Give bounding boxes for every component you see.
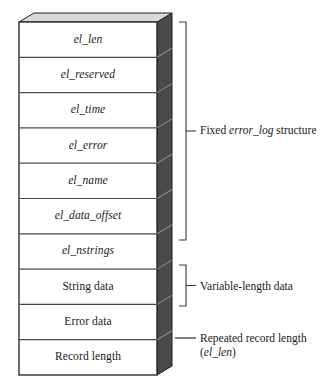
annotation-bracket bbox=[179, 265, 186, 306]
record-field-error-data: Error data bbox=[19, 316, 157, 328]
record-field-el-name: el_name bbox=[19, 175, 157, 187]
diagram-canvas bbox=[0, 0, 330, 388]
annotation-variable-length-data: Variable-length data bbox=[200, 280, 293, 294]
annotation-line-primary: Repeated record length bbox=[200, 332, 307, 346]
error-log-record-diagram: el_lenel_reservedel_timeel_errorel_namee… bbox=[0, 0, 330, 388]
annotation-bracket bbox=[179, 22, 186, 240]
annotation-line-secondary: (el_len) bbox=[200, 346, 307, 360]
record-field-el-len: el_len bbox=[19, 34, 157, 46]
record-field-el-error: el_error bbox=[19, 140, 157, 152]
annotation-repeated-record-length: Repeated record length(el_len) bbox=[200, 332, 307, 359]
record-field-el-time: el_time bbox=[19, 104, 157, 116]
record-field-record-length: Record length bbox=[19, 351, 157, 363]
record-field-string-data: String data bbox=[19, 281, 157, 293]
record-field-el-data-offset: el_data_offset bbox=[19, 210, 157, 222]
annotation-line-primary: Variable-length data bbox=[200, 280, 293, 294]
annotation-marker-group bbox=[175, 22, 196, 338]
block-top-face bbox=[19, 13, 172, 22]
record-field-el-reserved: el_reserved bbox=[19, 69, 157, 81]
annotation-fixed-structure: Fixed error_log structure bbox=[200, 124, 317, 138]
annotation-line-primary: Fixed error_log structure bbox=[200, 124, 317, 138]
record-field-el-nstrings: el_nstrings bbox=[19, 245, 157, 257]
